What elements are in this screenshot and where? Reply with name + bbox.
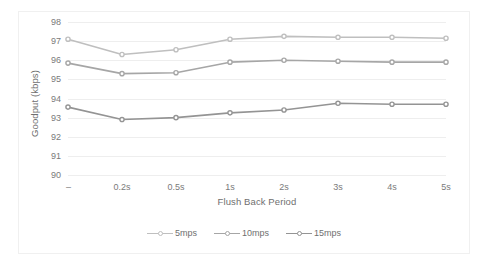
- series-line: [68, 103, 446, 119]
- data-point: [120, 117, 124, 121]
- x-tick-label: –: [66, 182, 70, 192]
- data-point: [174, 48, 178, 52]
- data-point: [444, 36, 448, 40]
- data-point: [444, 102, 448, 106]
- data-point: [282, 108, 286, 112]
- data-point: [174, 71, 178, 75]
- legend-swatch-icon: [214, 229, 240, 238]
- data-point: [66, 105, 70, 109]
- data-point: [66, 37, 70, 41]
- data-point: [336, 101, 340, 105]
- legend-swatch-icon: [286, 229, 312, 238]
- plot-area: 909192939495969798 –0.2s0.5s1s2s3s4s5s: [68, 22, 446, 175]
- data-point: [336, 35, 340, 39]
- x-tick-label: 1s: [225, 182, 235, 192]
- data-point: [390, 60, 394, 64]
- legend-item-5mps[interactable]: 5mps: [147, 228, 197, 238]
- data-point: [120, 72, 124, 76]
- legend-item-10mps[interactable]: 10mps: [214, 228, 269, 238]
- chart-figure: Goodput (kbps) 909192939495969798 –0.2s0…: [0, 0, 488, 275]
- series-10mps: [66, 58, 448, 76]
- x-tick-label: 0.2s: [113, 182, 130, 192]
- data-point: [66, 61, 70, 65]
- x-tick-label: 4s: [387, 182, 397, 192]
- series-15mps: [66, 101, 448, 121]
- data-point: [228, 60, 232, 64]
- data-point: [174, 116, 178, 120]
- data-point: [282, 58, 286, 62]
- x-tick-label: 0.5s: [167, 182, 184, 192]
- legend-label: 15mps: [314, 228, 341, 238]
- data-point: [282, 34, 286, 38]
- y-tick-label: 92: [51, 132, 61, 142]
- chart-legend: 5mps10mps15mps: [0, 228, 488, 238]
- data-point: [390, 35, 394, 39]
- legend-label: 5mps: [175, 228, 197, 238]
- data-point: [390, 102, 394, 106]
- y-tick-label: 97: [51, 36, 61, 46]
- y-tick-label: 90: [51, 170, 61, 180]
- x-tick-label: 5s: [441, 182, 451, 192]
- series-line: [68, 36, 446, 54]
- y-tick-label: 93: [51, 113, 61, 123]
- legend-label: 10mps: [242, 228, 269, 238]
- y-axis-title: Goodput (kbps): [29, 39, 40, 169]
- data-point: [336, 59, 340, 63]
- gridline-90: [68, 175, 446, 176]
- x-axis-title: Flush Back Period: [68, 196, 446, 207]
- y-tick-label: 98: [51, 17, 61, 27]
- legend-item-15mps[interactable]: 15mps: [286, 228, 341, 238]
- x-tick-label: 3s: [333, 182, 343, 192]
- data-point: [228, 111, 232, 115]
- x-tick-label: 2s: [279, 182, 289, 192]
- series-lines: [68, 22, 446, 175]
- y-tick-label: 95: [51, 74, 61, 84]
- data-point: [444, 60, 448, 64]
- y-tick-label: 91: [51, 151, 61, 161]
- series-5mps: [66, 34, 448, 56]
- y-tick-label: 96: [51, 55, 61, 65]
- data-point: [120, 52, 124, 56]
- y-tick-label: 94: [51, 94, 61, 104]
- data-point: [228, 37, 232, 41]
- legend-swatch-icon: [147, 229, 173, 238]
